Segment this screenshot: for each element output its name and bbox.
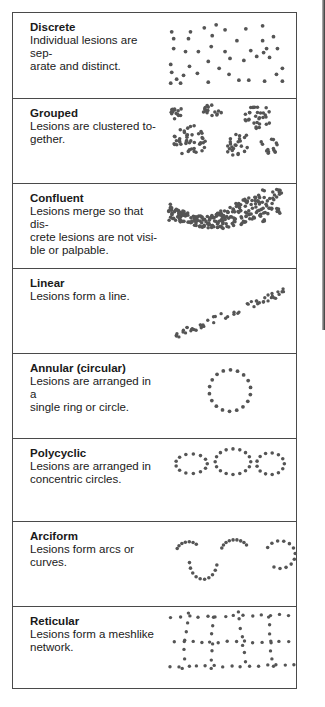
lesion-dot <box>183 213 187 217</box>
row-discrete: Discrete Individual lesions are sep- ara… <box>13 13 296 99</box>
lesion-dot <box>169 63 173 67</box>
lesion-dot <box>201 325 204 328</box>
lesion-dot <box>195 215 199 219</box>
lesion-dot <box>208 640 211 643</box>
lesion-dot <box>275 143 279 147</box>
lesion-dot <box>284 566 288 570</box>
lesion-dot <box>175 77 179 81</box>
lesion-dot <box>244 210 248 214</box>
lesion-dot <box>259 111 263 115</box>
lesion-dot <box>248 465 252 469</box>
confluent-pattern-illustration <box>163 184 298 268</box>
lesion-dot <box>282 290 285 293</box>
lesion-dot <box>177 114 181 118</box>
row-desc-line: Lesions are arranged in <box>30 460 158 473</box>
lesion-dot <box>273 296 276 299</box>
lesion-dot <box>263 79 267 83</box>
lesion-dot <box>186 213 190 217</box>
lesion-dot <box>245 133 249 137</box>
lesion-dot <box>232 614 235 617</box>
lesion-dot <box>228 57 232 61</box>
lesion-dot <box>193 223 197 227</box>
lesion-dot <box>180 542 184 546</box>
lesion-dot <box>266 199 270 203</box>
lesion-dot <box>266 299 269 302</box>
lesion-dot <box>184 453 188 457</box>
lesion-dot <box>191 541 195 545</box>
lesion-dot <box>293 552 297 556</box>
lesion-dot <box>176 109 180 113</box>
lesion-dot <box>266 546 270 550</box>
lesion-dot <box>244 451 248 455</box>
lesion-dot <box>206 462 210 466</box>
lesion-dot <box>272 138 276 142</box>
row-desc-line: Lesions form a line. <box>30 290 158 303</box>
polycyclic-pattern-illustration <box>163 439 298 521</box>
lesion-dot <box>231 207 235 211</box>
lesion-dot <box>223 209 227 213</box>
lesion-dot <box>184 540 188 544</box>
lesion-dot <box>183 657 186 660</box>
lesion-dot <box>199 130 203 134</box>
lesion-dot <box>174 464 178 468</box>
lesion-dot <box>175 334 178 337</box>
lesion-dot <box>245 199 249 203</box>
lesion-dot <box>224 472 228 476</box>
lesion-dot <box>284 663 287 666</box>
lesion-dot <box>261 201 265 205</box>
lesion-dot <box>242 541 246 545</box>
lesion-dot <box>206 109 210 113</box>
lesion-dot <box>215 372 219 376</box>
lesion-dot <box>216 226 220 230</box>
row-title: Discrete <box>30 21 158 34</box>
lesion-dot <box>268 56 272 60</box>
lesion-dot <box>187 37 191 41</box>
lesion-dot <box>224 448 228 452</box>
row-desc-line: Lesions form a meshlike <box>30 628 158 641</box>
lesion-dot <box>289 562 293 566</box>
lesion-dot <box>181 330 184 333</box>
lesion-dot <box>184 471 188 475</box>
lesion-dot <box>170 108 174 112</box>
lesion-dot <box>237 610 240 613</box>
lesion-dot <box>225 225 229 229</box>
lesion-dot <box>244 215 248 219</box>
lesion-dot <box>196 616 199 619</box>
lesion-dot <box>281 467 285 471</box>
lesion-dot <box>278 613 281 616</box>
lesion-dot <box>206 215 210 219</box>
row-desc-line: Individual lesions are sep- <box>30 34 158 60</box>
lesion-dot <box>226 144 230 148</box>
lesion-dot <box>197 50 201 54</box>
lesion-dot <box>210 224 214 228</box>
lesion-dot <box>178 455 182 459</box>
lesion-dot <box>242 59 246 63</box>
row-desc-line: arate and distinct. <box>30 60 158 73</box>
lesion-dot <box>247 117 251 121</box>
lesion-dot <box>246 399 250 403</box>
lesion-dot <box>293 557 297 561</box>
row-title: Polycyclic <box>30 447 158 460</box>
lesion-dot <box>227 72 231 76</box>
lesion-dot <box>170 30 174 34</box>
linear-pattern-illustration <box>163 269 298 353</box>
lesion-dot <box>248 212 252 216</box>
lesion-dot <box>212 616 215 619</box>
lesion-dot <box>170 213 174 217</box>
lesion-dot <box>240 216 244 220</box>
lesion-dot <box>265 149 269 153</box>
lesion-dot <box>264 452 268 456</box>
lesion-dot <box>208 385 212 389</box>
discrete-pattern-illustration <box>163 13 298 98</box>
lesion-dot <box>236 369 240 373</box>
lesion-dot <box>244 220 248 224</box>
lesion-dot <box>261 24 265 28</box>
lesion-dot <box>200 221 204 225</box>
lesion-dot <box>188 561 192 565</box>
lesion-dot <box>253 105 257 109</box>
lesion-dot <box>248 111 252 115</box>
lesion-dot <box>186 621 189 624</box>
lesion-dot <box>224 317 227 320</box>
lesion-dot <box>199 214 203 218</box>
row-desc-line: Lesions are clustered to- <box>30 120 158 133</box>
